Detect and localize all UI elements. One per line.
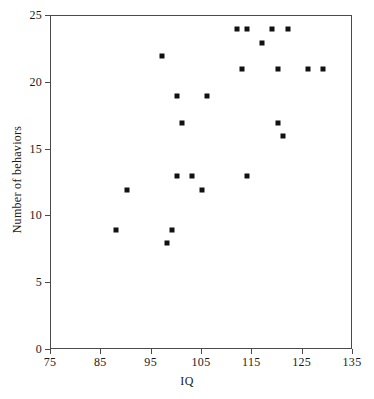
x-axis-tick [50,349,51,354]
y-axis-tick-label: 5 [12,275,42,289]
data-point [174,174,179,179]
data-point [189,174,194,179]
x-axis-tick [151,349,152,354]
y-axis-label: Number of behaviors [10,95,25,265]
y-axis-tick [45,149,50,150]
data-point [174,94,179,99]
x-axis-tick-label: 135 [332,355,372,369]
data-point [179,120,184,125]
y-axis-tick [45,349,50,350]
x-axis-label: IQ [0,374,374,389]
plot-data-area [51,16,351,348]
data-point [270,27,275,32]
data-point [320,67,325,72]
y-axis-tick-label: 0 [12,342,42,356]
data-point [240,67,245,72]
data-point [260,40,265,45]
data-point [169,227,174,232]
y-axis-tick [45,215,50,216]
data-point [245,174,250,179]
y-axis-tick [45,15,50,16]
x-axis-tick-label: 85 [80,355,120,369]
data-point [114,227,119,232]
y-axis-tick [45,282,50,283]
y-axis-tick-label: 25 [12,8,42,22]
y-axis-tick-label: 20 [12,75,42,89]
data-point [275,67,280,72]
x-axis-tick [251,349,252,354]
data-point [285,27,290,32]
data-point [205,94,210,99]
data-point [275,120,280,125]
x-axis-tick-label: 125 [282,355,322,369]
y-axis-tick [45,82,50,83]
x-axis-tick [201,349,202,354]
scatter-plot-figure: 758595105115125135 0510152025 IQ Number … [0,0,374,399]
plot-frame [50,15,352,349]
data-point [159,54,164,59]
data-point [235,27,240,32]
data-point [245,27,250,32]
data-point [200,187,205,192]
data-point [164,241,169,246]
x-axis-tick [352,349,353,354]
data-point [305,67,310,72]
x-axis-tick-label: 75 [30,355,70,369]
x-axis-tick-label: 95 [131,355,171,369]
data-point [280,134,285,139]
x-axis-tick-label: 105 [181,355,221,369]
x-axis-tick-label: 115 [231,355,271,369]
x-axis-tick [302,349,303,354]
x-axis-tick [100,349,101,354]
data-point [124,187,129,192]
